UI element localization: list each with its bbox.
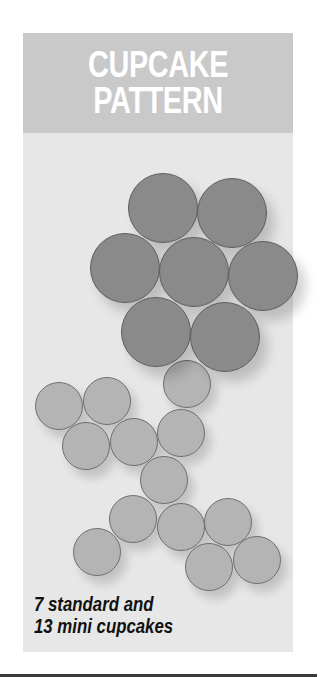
title-line-2: PATTERN (53, 83, 264, 119)
header-band: CUPCAKE PATTERN (23, 33, 293, 133)
mini-cupcake (109, 495, 157, 543)
caption-line-1: 7 standard and (34, 593, 154, 615)
caption-line-2: 13 mini cupcakes (34, 615, 173, 637)
mini-cupcake (233, 536, 281, 584)
standard-cupcake (121, 297, 191, 367)
standard-cupcake (128, 173, 198, 243)
mini-cupcake (157, 503, 205, 551)
cupcake-pattern-card: CUPCAKE PATTERN 7 standard and 13 mini c… (23, 33, 293, 652)
standard-cupcake (159, 237, 229, 307)
mini-cupcake (73, 528, 121, 576)
mini-cupcake (35, 382, 83, 430)
standard-cupcake (90, 233, 160, 303)
mini-cupcake (140, 456, 188, 504)
title-line-1: CUPCAKE (53, 47, 264, 83)
mini-cupcake (62, 422, 110, 470)
standard-cupcake (190, 302, 260, 372)
standard-cupcake (197, 178, 267, 248)
standard-cupcake (228, 241, 298, 311)
mini-cupcake (185, 543, 233, 591)
mini-cupcake (83, 377, 131, 425)
mini-cupcake (163, 360, 211, 408)
mini-cupcake (157, 409, 205, 457)
